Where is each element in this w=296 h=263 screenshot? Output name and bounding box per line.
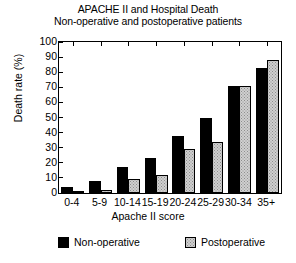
y-axis-label: Death rate (%) [12,40,24,136]
bar-non-operative [256,68,268,193]
bar-group [228,42,251,193]
bar-non-operative [89,181,101,193]
bar-series-container [59,42,281,193]
bar-non-operative [117,167,129,193]
bar-group [89,42,112,193]
legend-label-postoperative: Postoperative [201,236,265,248]
chart-title-block: APACHE II and Hospital Death Non-operati… [0,3,296,27]
bar-group [145,42,168,193]
bar-postoperative [267,60,279,193]
chart-figure: APACHE II and Hospital Death Non-operati… [0,0,296,263]
y-tick-label: 100 [31,35,57,48]
x-tick-mark [239,42,240,46]
stippled-square-icon [185,237,196,248]
x-tick-mark [128,42,129,46]
legend-label-non-operative: Non-operative [74,236,140,248]
bar-postoperative [184,149,196,193]
y-tick-label: 50 [31,111,57,124]
y-tick-label: 40 [31,126,57,139]
x-tick-mark [184,42,185,46]
x-tick-mark [212,42,213,46]
legend-item-postoperative: Postoperative [185,236,265,248]
bar-postoperative [128,179,140,193]
y-tick-label: 90 [31,50,57,63]
bar-postoperative [212,142,224,193]
bar-non-operative [172,136,184,193]
black-square-icon [58,237,69,248]
legend-item-non-operative: Non-operative [58,236,140,248]
plot-area: 0102030405060708090100 [58,41,282,194]
bar-postoperative [156,175,168,193]
bar-group [172,42,195,193]
bar-postoperative [101,190,113,193]
y-tick-label: 60 [31,95,57,108]
bar-group [256,42,279,193]
x-tick-mark [267,42,268,46]
bar-non-operative [61,187,73,193]
x-tick-mark [156,42,157,46]
x-tick-label: 35+ [246,196,286,208]
bar-group [117,42,140,193]
bar-group [61,42,84,193]
bar-non-operative [228,86,240,193]
y-tick-label: 80 [31,65,57,78]
x-axis-label: Apache II score [0,210,296,222]
bar-group [200,42,223,193]
y-tick-label: 20 [31,156,57,169]
y-tick-label: 30 [31,141,57,154]
y-tick-label: 70 [31,80,57,93]
bar-postoperative [73,191,85,193]
x-tick-mark [101,42,102,46]
bar-non-operative [200,118,212,194]
x-tick-mark [73,42,74,46]
chart-subtitle: Non-operative and postoperative patients [0,15,296,27]
chart-title: APACHE II and Hospital Death [0,3,296,15]
chart-legend: Non-operative Postoperative [0,236,296,256]
bar-non-operative [145,158,157,193]
y-tick-label: 10 [31,171,57,184]
bar-postoperative [239,86,251,193]
